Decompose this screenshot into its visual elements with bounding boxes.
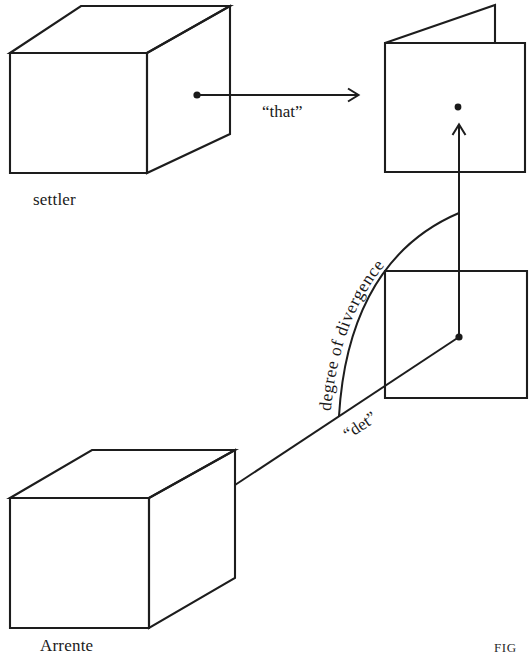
that-label: “that”: [262, 102, 303, 121]
divergence-arc-label-text: degree of divergence: [315, 255, 388, 412]
diagram-canvas: settler “that”: [0, 0, 530, 655]
folded-plane: [385, 5, 525, 172]
det-label-group: “det”: [340, 408, 380, 444]
vertical-link: [453, 125, 466, 338]
arrernte-cube-front-face: [10, 498, 149, 628]
arrernte-cube-top-face: [10, 450, 235, 498]
det-label: “det”: [340, 408, 380, 444]
settler-cube-top-face: [10, 6, 230, 53]
arrernte-cube-label: Arrente: [40, 636, 93, 655]
figure-root: settler “that”: [0, 0, 530, 655]
arrernte-cube-right-face: [149, 450, 235, 628]
settler-cube-right-face: [147, 6, 230, 173]
divergence-arc-label: degree of divergence: [315, 255, 388, 412]
folded-plane-flap: [385, 5, 495, 43]
settler-cube-label: settler: [33, 190, 76, 209]
folded-plane-point: [455, 104, 462, 111]
that-arrow: [193, 89, 358, 102]
settler-cube-front-face: [10, 53, 147, 173]
arrernte-cube: [10, 450, 235, 628]
figure-caption: FIG: [494, 640, 517, 655]
settler-cube: [10, 6, 230, 173]
flat-plane-square: [385, 271, 527, 398]
flat-plane: [385, 271, 527, 398]
